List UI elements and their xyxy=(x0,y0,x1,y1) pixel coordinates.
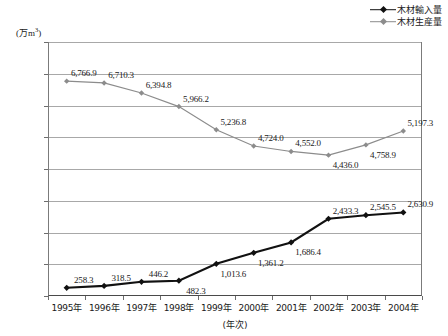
y-axis-unit-label: (万m3) xyxy=(16,24,41,39)
data-point-label: 258.3 xyxy=(74,275,93,285)
data-point-label: 5,966.2 xyxy=(183,94,209,104)
y-axis-tick-mark xyxy=(44,201,48,202)
data-point-label: 446.2 xyxy=(149,269,168,279)
data-point-label: 1,686.4 xyxy=(295,247,321,257)
gridline xyxy=(49,74,421,75)
x-axis-tick-mark xyxy=(85,296,86,300)
gridline xyxy=(49,264,421,265)
data-point-label: 6,710.3 xyxy=(108,70,134,80)
y-axis-tick-mark xyxy=(44,106,48,107)
data-point-label: 6,766.9 xyxy=(71,68,97,78)
data-point-label: 4,758.9 xyxy=(370,150,396,160)
legend-item-production[interactable]: 木材生産量 xyxy=(370,16,442,27)
data-point-label: 318.5 xyxy=(111,273,130,283)
data-point-label: 4,552.0 xyxy=(295,138,321,148)
x-axis-tick-label: 2001年 xyxy=(276,303,306,314)
x-axis-tick-mark xyxy=(160,296,161,300)
x-axis-tick-label: 2004年 xyxy=(388,303,418,314)
data-point-label: 482.3 xyxy=(186,286,205,296)
x-axis-tick-label: 1998年 xyxy=(164,303,194,314)
gridline xyxy=(49,137,421,138)
x-axis-tick-label: 2003年 xyxy=(351,303,381,314)
x-axis-tick-mark xyxy=(272,296,273,300)
x-axis-tick-mark xyxy=(198,296,199,300)
data-point-label: 4,724.0 xyxy=(258,133,284,143)
x-axis-tick-mark xyxy=(385,296,386,300)
x-axis-tick-label: 1997年 xyxy=(126,303,156,314)
data-point-label: 5,197.3 xyxy=(407,118,433,128)
y-axis-unit-text: (万m xyxy=(16,28,35,38)
gridline xyxy=(49,233,421,234)
x-axis-tick-mark xyxy=(48,296,49,300)
data-point-label: 4,436.0 xyxy=(333,160,359,170)
x-axis-title: (年次) xyxy=(222,320,247,331)
y-axis-tick-mark xyxy=(44,264,48,265)
gridline xyxy=(49,201,421,202)
x-axis-tick-label: 2002年 xyxy=(313,303,343,314)
data-point-label: 2,433.3 xyxy=(333,206,359,216)
x-axis-tick-mark xyxy=(310,296,311,300)
data-point-label: 2,545.5 xyxy=(370,202,396,212)
data-point-label: 6,394.8 xyxy=(146,80,172,90)
data-point-label: 1,361.2 xyxy=(258,258,284,268)
chart-legend: 木材輸入量 木材生産量 xyxy=(370,4,442,27)
gridline xyxy=(49,169,421,170)
y-axis-unit-tail: ) xyxy=(38,28,41,38)
legend-label-production: 木材生産量 xyxy=(396,17,442,27)
data-point-label: 5,236.8 xyxy=(220,117,246,127)
plot-area xyxy=(48,42,422,296)
x-axis-tick-label: 1995年 xyxy=(51,303,81,314)
legend-label-import: 木材輸入量 xyxy=(396,5,442,15)
gridline xyxy=(49,106,421,107)
y-axis-tick-mark xyxy=(44,137,48,138)
legend-marker-production xyxy=(370,17,396,27)
y-axis-tick-mark xyxy=(44,74,48,75)
y-axis-tick-mark xyxy=(44,42,48,43)
x-axis-tick-mark xyxy=(123,296,124,300)
y-axis-tick-mark xyxy=(44,233,48,234)
x-axis-tick-label: 1996年 xyxy=(89,303,119,314)
x-axis-tick-mark xyxy=(347,296,348,300)
x-axis-tick-mark xyxy=(422,296,423,300)
gridline xyxy=(49,42,421,43)
legend-marker-import xyxy=(370,5,396,15)
y-axis-tick-mark xyxy=(44,169,48,170)
x-axis-tick-label: 2000年 xyxy=(238,303,268,314)
data-point-label: 1,013.6 xyxy=(220,269,246,279)
legend-item-import[interactable]: 木材輸入量 xyxy=(370,4,442,15)
x-axis-tick-label: 1999年 xyxy=(201,303,231,314)
data-point-label: 2,630.9 xyxy=(407,199,433,209)
line-chart: 木材輸入量 木材生産量 (万m3) (年次) 01,0002,0003,0004… xyxy=(0,0,448,336)
x-axis-tick-mark xyxy=(235,296,236,300)
